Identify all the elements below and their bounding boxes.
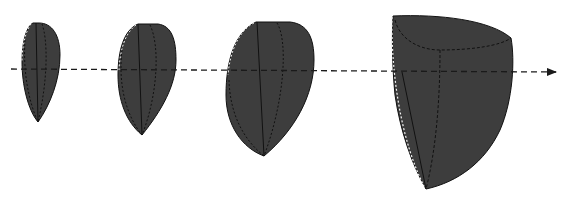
shape-3-body bbox=[226, 22, 314, 156]
shape-4 bbox=[392, 16, 513, 189]
shape-2 bbox=[118, 24, 176, 135]
diagram-svg bbox=[0, 0, 564, 204]
diagram-canvas bbox=[0, 0, 564, 204]
shape-3 bbox=[226, 22, 314, 156]
shape-1 bbox=[22, 23, 60, 122]
shape-2-body bbox=[118, 24, 176, 135]
shape-1-body bbox=[22, 23, 60, 122]
